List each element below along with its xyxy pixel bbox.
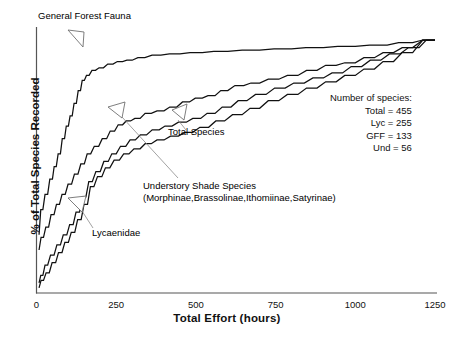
legend-row-total: Total = 455 [330, 105, 412, 118]
xtick-label-1250: 1250 [415, 299, 454, 310]
species-count-legend: Number of species: Total = 455 Lyc = 255… [330, 92, 412, 155]
xtick-label-0: 0 [17, 299, 57, 310]
legend-heading: Number of species: [330, 92, 412, 105]
chart-figure: General Forest Fauna Total Species Under… [0, 0, 454, 337]
annotation-understory-subfamilies: (Morphinae,Brassolinae,Ithomiinae,Satyri… [143, 192, 336, 204]
curve-understory-shade-species [39, 40, 435, 283]
annotation-general-forest-fauna: General Forest Fauna [38, 10, 131, 22]
arrowhead-total [172, 104, 187, 120]
curve-lycaenidae [39, 40, 435, 288]
arrowhead-gff [68, 30, 84, 47]
annotation-total-species: Total Species [168, 126, 225, 138]
arrowhead-understory [108, 102, 125, 118]
legend-row-gff: GFF = 133 [330, 130, 412, 143]
xtick-label-750: 750 [256, 299, 296, 310]
x-axis-label: Total Effort (hours) [0, 312, 454, 324]
legend-row-lyc: Lyc = 255 [330, 117, 412, 130]
legend-row-und: Und = 56 [330, 142, 412, 155]
y-axis-label: % of Total Species Recorded [29, 36, 41, 276]
annotation-lycaenidae: Lycaenidae [92, 227, 140, 239]
data-curves [39, 40, 435, 288]
leader-lycaenidae [82, 211, 93, 228]
plot-canvas [0, 0, 454, 337]
xtick-label-500: 500 [176, 299, 216, 310]
annotation-understory-shade-species: Understory Shade Species [143, 180, 256, 192]
xtick-label-250: 250 [96, 299, 136, 310]
xtick-label-1000: 1000 [335, 299, 375, 310]
